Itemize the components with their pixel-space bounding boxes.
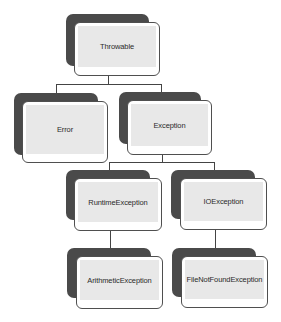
node-throwable: Throwable [66,14,161,76]
node-exception: Exception [119,92,212,155]
node-io-exception: IOException [171,170,268,230]
node-label-exception: Exception [153,121,185,130]
connector-to-exception [161,84,162,92]
node-label-arithmetic-exception: ArithmeticException [87,276,151,285]
connector-level1-horizontal [56,84,162,85]
node-label-io-exception: IOException [204,197,244,206]
node-label-file-not-found-exception: FileNotFoundException [187,275,263,284]
node-file-not-found-exception: FileNotFoundException [172,248,269,308]
node-card: Exception [127,100,212,155]
node-label-throwable: Throwable [100,42,134,51]
node-runtime-exception: RuntimeException [66,170,163,232]
node-card: RuntimeException [74,178,162,231]
node-arithmetic-exception: ArithmeticException [67,248,164,309]
node-card: Error [22,101,108,163]
node-card: Throwable [74,22,160,76]
connector-to-io-exception [214,162,215,170]
connector-io-to-filenotfound [215,229,216,248]
node-label-runtime-exception: RuntimeException [88,198,147,207]
connector-to-runtime-exception [109,162,110,170]
node-error: Error [14,93,109,164]
exception-hierarchy-diagram: Throwable Error Exception RuntimeExcepti… [0,0,281,322]
node-card: IOException [180,178,267,230]
node-card: ArithmeticException [76,256,163,309]
connector-runtime-to-arithmetic [110,231,111,248]
connector-level2-horizontal [109,162,215,163]
connector-to-error [56,84,57,93]
node-label-error: Error [57,125,73,134]
node-card: FileNotFoundException [181,256,268,308]
